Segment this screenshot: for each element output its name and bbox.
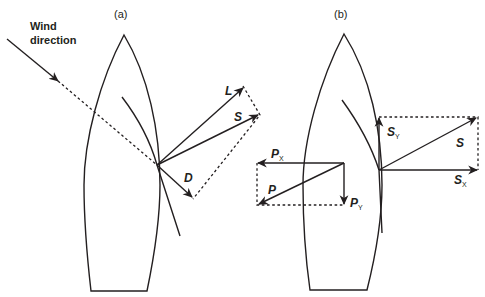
panel-b-label: (b)	[334, 8, 347, 20]
hull-a	[84, 35, 160, 291]
wind-label-line2: direction	[30, 34, 77, 46]
wind-direction-dashed-line	[58, 81, 157, 165]
sail-force-y-label: SY	[387, 125, 400, 140]
panel-a-label: (a)	[114, 8, 127, 20]
resistance-y-label: PY	[350, 196, 363, 211]
sailing-force-diagram: (a) Wind direction L S D (b) SY S	[0, 0, 485, 297]
resistance-x-label: PX	[271, 147, 284, 162]
drag-label: D	[184, 171, 193, 185]
panel-a: (a) Wind direction L S D	[7, 8, 260, 291]
panel-b: (b) SY S SX PX P PY	[257, 8, 478, 290]
lift-vector	[157, 88, 243, 165]
wind-label-line1: Wind	[30, 20, 57, 32]
sail-force-x-label: SX	[454, 173, 467, 188]
sail-force-label-a: S	[234, 110, 242, 124]
sail-force-label-b: S	[456, 136, 464, 150]
sail-a	[122, 97, 180, 236]
resistance-label: P	[268, 183, 277, 197]
sail-force-vector	[157, 115, 258, 165]
hull-b	[303, 34, 382, 290]
lift-label: L	[225, 84, 232, 98]
